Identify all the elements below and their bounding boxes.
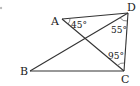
angle-label-C: 95° xyxy=(108,51,124,61)
label-B: B xyxy=(20,65,28,78)
label-A: A xyxy=(50,15,60,28)
angle-arc-C xyxy=(118,63,125,66)
angle-label-D: 55° xyxy=(111,25,127,35)
label-C: C xyxy=(121,73,129,86)
segment-AD xyxy=(62,13,128,19)
label-D: D xyxy=(127,1,136,14)
bullet-marker xyxy=(0,7,2,9)
segment-DC xyxy=(124,13,128,71)
angle-arc-A xyxy=(68,18,70,24)
geometry-diagram: A B C D 45° 55° 95° xyxy=(0,0,140,86)
angle-label-A: 45° xyxy=(71,20,87,30)
angle-arc-D xyxy=(120,18,128,21)
